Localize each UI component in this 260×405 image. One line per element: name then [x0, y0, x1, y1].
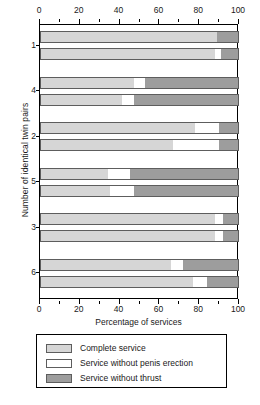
bar-segment-nothrust [134, 94, 239, 106]
bar-segment-noerect [110, 185, 134, 197]
x-tick-minor [99, 19, 100, 22]
x-tick-label: 40 [114, 5, 123, 15]
y-category-label: 5 [22, 176, 36, 186]
legend-item: Service without thrust [46, 371, 226, 385]
x-axis-ticklabels-bottom: 020406080100 [39, 304, 238, 316]
bar-segment-nothrust [217, 31, 239, 43]
bar-segment-nothrust [134, 185, 239, 197]
x-tick-label: 100 [231, 5, 245, 15]
plot-area [39, 24, 238, 299]
bar-segment-complete [40, 230, 215, 242]
bar-segment-complete [40, 48, 215, 60]
bar-segment-complete [40, 139, 173, 151]
bar-segment-noerect [195, 122, 219, 134]
y-category-label: 2 [22, 131, 36, 141]
x-tick-minor [218, 19, 219, 22]
bar-segment-complete [40, 31, 217, 43]
bar-1-0 [40, 31, 239, 43]
x-tick-minor [59, 19, 60, 22]
x-tick-label: 0 [37, 5, 42, 15]
bar-3-1 [40, 230, 239, 242]
bar-segment-complete [40, 213, 215, 225]
bar-segment-nothrust [183, 259, 239, 271]
bar-segment-noerect [171, 259, 183, 271]
bar-4-1 [40, 94, 239, 106]
bar-segment-nothrust [219, 122, 239, 134]
y-category-label: 1 [22, 40, 36, 50]
bar-1-1 [40, 48, 239, 60]
y-tick [36, 45, 40, 46]
x-tick-label: 20 [74, 5, 83, 15]
bar-segment-nothrust [223, 213, 239, 225]
bar-segment-complete [40, 185, 110, 197]
bar-segment-complete [40, 168, 108, 180]
x-tick-minor [139, 19, 140, 22]
bar-segment-noerect [193, 276, 207, 288]
x-axis-ticklabels-top: 020406080100 [39, 5, 238, 17]
bar-segment-complete [40, 94, 122, 106]
legend-swatch-nothrust [46, 374, 72, 383]
legend-swatch-complete [46, 344, 72, 353]
chart-legend: Complete serviceService without penis er… [36, 334, 227, 388]
bar-6-1 [40, 276, 239, 288]
bar-segment-complete [40, 276, 193, 288]
legend-item: Complete service [46, 341, 226, 355]
x-tick-label: 0 [37, 304, 42, 314]
x-tick-label: 60 [154, 304, 163, 314]
bar-2-0 [40, 122, 239, 134]
bar-3-0 [40, 213, 239, 225]
legend-label: Service without penis erection [80, 358, 193, 368]
y-tick [36, 227, 40, 228]
bar-segment-noerect [122, 94, 134, 106]
bar-segment-noerect [215, 213, 223, 225]
bar-segment-noerect [173, 139, 219, 151]
bar-2-1 [40, 139, 239, 151]
bar-segment-complete [40, 259, 171, 271]
x-axis-title: Percentage of services [39, 317, 238, 327]
x-tick-label: 100 [231, 304, 245, 314]
legend-item: Service without penis erection [46, 356, 226, 370]
chart-figure: Number of identical twin pairs 020406080… [0, 0, 260, 405]
x-tick-label: 60 [154, 5, 163, 15]
bar-segment-complete [40, 122, 195, 134]
y-tick [36, 181, 40, 182]
bar-segment-nothrust [223, 230, 239, 242]
bar-4-0 [40, 77, 239, 89]
x-tick-label: 40 [114, 304, 123, 314]
x-tick-major [238, 19, 239, 24]
y-category-label: 3 [22, 222, 36, 232]
bar-segment-noerect [134, 77, 146, 89]
legend-label: Complete service [80, 343, 146, 353]
bar-5-0 [40, 168, 239, 180]
x-tick-minor [178, 19, 179, 22]
bar-segment-complete [40, 77, 134, 89]
bar-6-0 [40, 259, 239, 271]
bar-5-1 [40, 185, 239, 197]
bar-segment-nothrust [219, 139, 239, 151]
bar-segment-noerect [215, 230, 223, 242]
bar-segment-nothrust [207, 276, 239, 288]
x-tick-label: 20 [74, 304, 83, 314]
y-tick [36, 272, 40, 273]
bar-segment-noerect [108, 168, 130, 180]
legend-swatch-noerect [46, 359, 72, 368]
bar-segment-nothrust [130, 168, 239, 180]
x-tick-label: 80 [193, 304, 202, 314]
bar-segment-nothrust [221, 48, 239, 60]
y-tick [36, 90, 40, 91]
legend-label: Service without thrust [80, 373, 161, 383]
y-tick [36, 136, 40, 137]
y-category-label: 6 [22, 267, 36, 277]
y-axis-categories: 142536 [20, 24, 36, 299]
bar-segment-nothrust [145, 77, 239, 89]
y-category-label: 4 [22, 85, 36, 95]
x-tick-label: 80 [193, 5, 202, 15]
